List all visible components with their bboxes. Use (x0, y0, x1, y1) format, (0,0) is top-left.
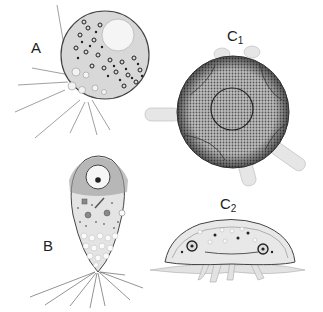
cell-c1 (145, 46, 308, 187)
cell-a (15, 5, 149, 138)
figure-illustration (0, 0, 323, 312)
cell-c2 (150, 220, 305, 283)
cell-b (30, 156, 143, 308)
